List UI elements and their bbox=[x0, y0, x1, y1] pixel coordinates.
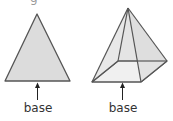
diagram-canvas: g bbox=[0, 0, 173, 121]
triangle-base-arrow-icon bbox=[35, 83, 40, 101]
triangle-base-label: base bbox=[18, 101, 58, 115]
pyramid-base-arrow-icon bbox=[120, 83, 125, 101]
pyramid-shape bbox=[92, 8, 167, 82]
pyramid-base-label: base bbox=[103, 101, 143, 115]
triangle-shape bbox=[5, 14, 70, 81]
